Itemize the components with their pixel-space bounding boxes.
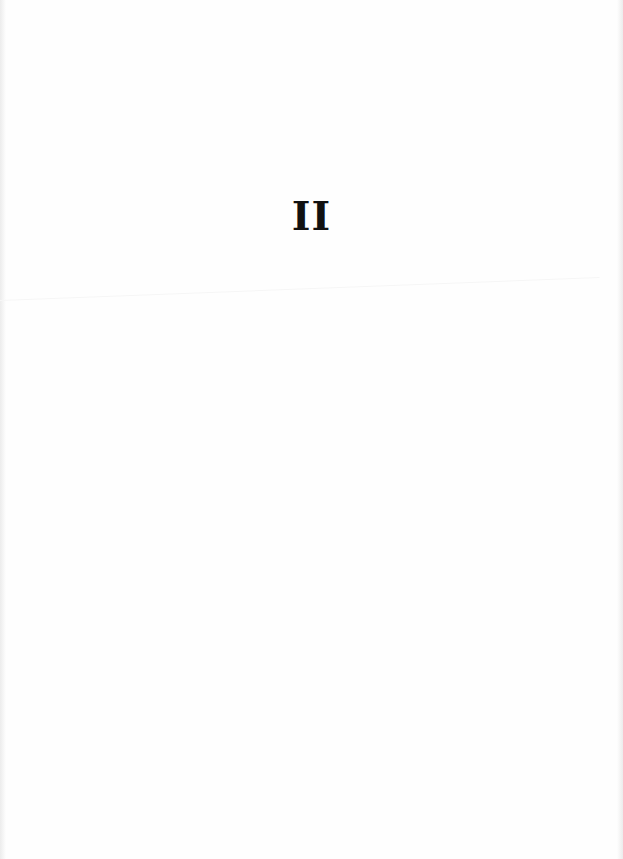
scan-edge-right (617, 0, 623, 859)
part-heading: II (0, 192, 623, 240)
scan-artifact-line (0, 277, 600, 301)
scan-edge-left (0, 0, 6, 859)
document-page: II (0, 0, 623, 859)
